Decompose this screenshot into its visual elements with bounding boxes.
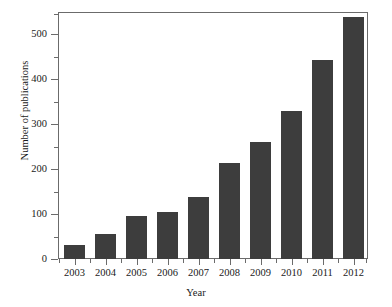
y-tick-500: [51, 34, 58, 35]
y-tick-minor-250: [54, 147, 58, 148]
bar-2003: [64, 245, 85, 259]
x-axis-title: Year: [0, 287, 392, 298]
y-tick-minor-350: [54, 102, 58, 103]
y-tick-minor-550: [54, 14, 58, 15]
bar-2005: [126, 216, 147, 259]
x-tick-2004: [106, 259, 107, 265]
x-tick-minor-6: [214, 259, 215, 263]
x-tick-2006: [168, 259, 169, 265]
y-tick-minor-450: [54, 57, 58, 58]
bar-2006: [157, 212, 178, 259]
x-tick-2009: [261, 259, 262, 265]
bar-2009: [250, 142, 271, 259]
y-tick-400: [51, 79, 58, 80]
x-tick-minor-7: [245, 259, 246, 263]
y-tick-label-300: 300: [31, 119, 47, 130]
y-tick-300: [51, 124, 58, 125]
bar-2011: [312, 60, 333, 259]
y-tick-0: [51, 259, 58, 260]
x-tick-2011: [323, 259, 324, 265]
bars-layer: [58, 12, 368, 259]
y-tick-label-400: 400: [31, 74, 47, 85]
y-tick-minor-50: [54, 237, 58, 238]
x-tick-minor-3: [121, 259, 122, 263]
x-tick-2010: [292, 259, 293, 265]
x-tick-2007: [199, 259, 200, 265]
x-tick-minor-9: [307, 259, 308, 263]
x-tick-2005: [137, 259, 138, 265]
y-tick-label-0: 0: [42, 254, 47, 265]
y-tick-minor-150: [54, 192, 58, 193]
bar-2007: [188, 197, 209, 259]
bar-2008: [219, 163, 240, 259]
x-tick-2008: [230, 259, 231, 265]
y-tick-label-100: 100: [31, 209, 47, 220]
bar-2004: [95, 234, 116, 259]
x-tick-minor-1: [59, 259, 60, 263]
x-tick-minor-10: [338, 259, 339, 263]
x-tick-minor-11: [366, 259, 367, 263]
y-tick-100: [51, 214, 58, 215]
x-tick-minor-2: [90, 259, 91, 263]
chart-figure: 0 100 200 300 400 500 2003 2004 2005 200…: [0, 0, 392, 307]
x-tick-minor-8: [276, 259, 277, 263]
y-axis-title: Number of publications: [19, 21, 30, 201]
bar-2012: [343, 17, 364, 259]
y-tick-label-200: 200: [31, 164, 47, 175]
x-tick-label-2012: 2012: [334, 268, 374, 279]
bar-2010: [281, 111, 302, 259]
y-tick-label-500: 500: [31, 29, 47, 40]
x-tick-minor-5: [183, 259, 184, 263]
x-tick-2003: [75, 259, 76, 265]
x-tick-minor-4: [152, 259, 153, 263]
x-tick-2012: [354, 259, 355, 265]
y-tick-200: [51, 169, 58, 170]
